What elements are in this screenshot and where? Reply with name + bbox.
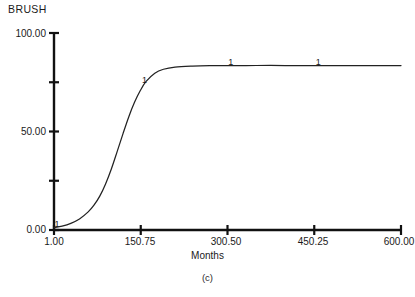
data-point-marker-4: 1 [316,57,321,66]
y-axis-tick-label-100: 100.00 [0,28,46,39]
x-axis-tick-label-3: 300.50 [191,236,261,247]
y-axis-tick-label-0: 0.00 [0,224,46,235]
data-point-marker-3: 1 [228,57,233,66]
x-axis-title: Months [0,250,415,261]
figure-container: BRUSH 100.00 50.00 0.00 1.00 150.75 300.… [0,0,415,297]
data-point-marker-2: 1 [142,76,147,85]
figure-caption: (c) [0,272,415,283]
data-curve-line [54,65,401,227]
plot-series-title: BRUSH [8,3,47,15]
data-point-marker-1: 1 [54,219,59,228]
x-axis-tick-label-2: 150.75 [105,236,175,247]
y-axis-tick-label-50: 50.00 [0,126,46,137]
x-axis-tick-label-4: 450.25 [278,236,348,247]
x-axis-tick-label-5: 600.00 [364,236,415,247]
x-axis-tick-label-1: 1.00 [19,236,89,247]
